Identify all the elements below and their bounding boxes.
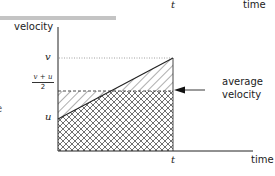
annotation-average: average: [222, 76, 263, 87]
y-axis-label: velocity: [14, 21, 53, 32]
y-tick-average-fraction: v + u 2: [32, 73, 54, 91]
y-tick-u: u: [45, 111, 51, 122]
fraction-denominator: 2: [32, 83, 54, 91]
y-tick-v: v: [45, 51, 51, 62]
annotation-arrowhead: [174, 87, 185, 94]
x-tick-t: t: [171, 154, 175, 165]
x-axis-label: time: [251, 154, 274, 165]
fraction-numerator: v + u: [32, 73, 54, 81]
annotation-velocity: velocity: [222, 89, 261, 100]
